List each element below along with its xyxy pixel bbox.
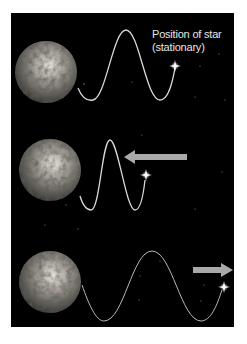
star-position-label-line2: (stationary) xyxy=(152,41,222,54)
arrow-left-icon xyxy=(124,150,187,164)
arrow-right-icon xyxy=(193,263,233,277)
panel-approaching xyxy=(19,139,187,210)
star-icon xyxy=(169,60,181,72)
earth-icon xyxy=(15,41,77,103)
star-icon xyxy=(218,281,230,293)
earth-icon xyxy=(19,251,81,313)
star-icon xyxy=(140,169,152,181)
star-position-label: Position of star (stationary) xyxy=(152,28,222,54)
light-wave-compressed xyxy=(80,140,145,210)
earth-icon xyxy=(19,139,81,201)
star-position-label-line1: Position of star xyxy=(152,28,222,41)
panel-receding xyxy=(19,251,233,321)
light-wave-stretched xyxy=(82,251,222,321)
